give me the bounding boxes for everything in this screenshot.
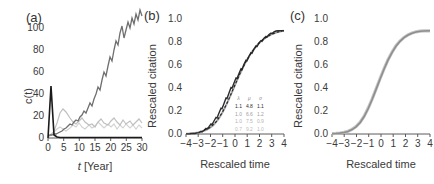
- panel-b-x-axis-title: Rescaled time: [186, 158, 284, 170]
- inset-cell-sigma: 1.2: [255, 111, 266, 119]
- panel-b-inset-table: λ μ σ 1.1 4.8 1.1 1.0 6.6 1.2 1.0 7.5 0.…: [233, 95, 266, 134]
- panel-c: (c) Rescaled citation 1.0 0.8 0.6 0.4 0.…: [286, 0, 434, 184]
- inset-table-row: 1.1 4.8 1.1: [233, 103, 266, 111]
- inset-cell-mu: 6.6: [244, 111, 255, 119]
- panel-a: (a) c(t) 100 80 60 40 20 0: [0, 0, 145, 184]
- inset-cell-lambda: 1.0: [233, 111, 244, 119]
- inset-cell-sigma: 1.1: [255, 103, 266, 111]
- inset-table-header-lambda: λ: [233, 95, 244, 103]
- inset-cell-mu: 9.2: [244, 126, 255, 134]
- inset-cell-lambda: 0.7: [233, 126, 244, 134]
- panel-a-plot: [0, 0, 145, 184]
- figure-container: (a) c(t) 100 80 60 40 20 0: [0, 0, 434, 184]
- inset-cell-mu: 4.8: [244, 103, 255, 111]
- inset-cell-sigma: 0.9: [255, 118, 266, 126]
- inset-table-header-sigma: σ: [255, 95, 266, 103]
- inset-cell-mu: 7.5: [244, 118, 255, 126]
- inset-cell-sigma: 1.0: [255, 126, 266, 134]
- inset-table-row: 1.0 7.5 0.9: [233, 118, 266, 126]
- panel-c-x-axis-title: Rescaled time: [332, 158, 430, 170]
- panel-b-plot: [140, 0, 288, 184]
- inset-table-header-mu: μ: [244, 95, 255, 103]
- inset-table-row: 0.7 9.2 1.0: [233, 126, 266, 134]
- panel-c-xtick-4: 4: [423, 138, 434, 149]
- inset-cell-lambda: 1.0: [233, 118, 244, 126]
- inset-table-row: 1.0 6.6 1.2: [233, 111, 266, 119]
- panel-a-x-axis-title: t [Year]: [48, 160, 142, 172]
- panel-b: (b) Rescaled citation 1.0 0.8 0.6 0.4 0.…: [140, 0, 288, 184]
- panel-c-plot: [286, 0, 434, 184]
- inset-cell-lambda: 1.1: [233, 103, 244, 111]
- panel-a-x-axis-title-unit: [Year]: [81, 160, 112, 172]
- inset-table-header-row: λ μ σ: [233, 95, 266, 103]
